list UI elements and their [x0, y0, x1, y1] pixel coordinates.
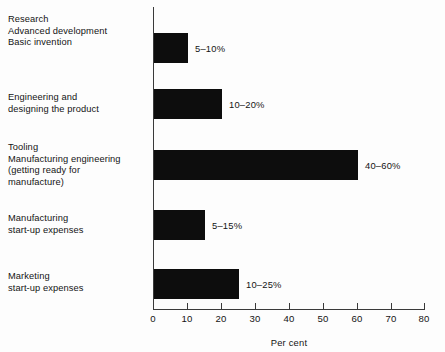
x-axis-tick-label-50: 50 — [317, 313, 328, 324]
x-axis-tick-label-30: 30 — [249, 313, 260, 324]
category-label-5: Marketing start-up expenses — [8, 271, 154, 294]
x-axis-tick-label-80: 80 — [418, 313, 429, 324]
bar-1 — [154, 33, 188, 63]
bar-value-3: 40–60% — [365, 160, 401, 171]
x-axis-tick-30 — [255, 303, 256, 309]
x-axis-tick-20 — [221, 303, 222, 309]
category-label-2: Engineering and designing the product — [8, 92, 154, 115]
x-axis-tick-40 — [289, 303, 290, 309]
x-axis-tick-label-20: 20 — [215, 313, 226, 324]
plot-area: 0 10 20 30 40 50 60 70 80 5–10% 10–20% 4… — [153, 7, 425, 310]
x-axis-tick-label-10: 10 — [181, 313, 192, 324]
x-axis-tick-70 — [391, 303, 392, 309]
bar-value-4: 5–15% — [212, 220, 242, 231]
bar-value-5: 10–25% — [246, 279, 282, 290]
category-label-3: Tooling Manufacturing engineering (getti… — [8, 142, 154, 188]
x-axis-tick-50 — [323, 303, 324, 309]
x-axis-tick-0 — [153, 303, 154, 309]
bar-value-2: 10–20% — [229, 99, 265, 110]
x-axis-tick-label-70: 70 — [385, 313, 396, 324]
category-label-1: Research Advanced development Basic inve… — [8, 14, 154, 49]
bar-4 — [154, 210, 205, 240]
x-axis-tick-80 — [424, 303, 425, 309]
x-axis-tick-60 — [357, 303, 358, 309]
x-axis-tick-label-40: 40 — [283, 313, 294, 324]
x-axis-tick-10 — [187, 303, 188, 309]
bar-2 — [154, 89, 222, 119]
category-label-4: Manufacturing start-up expenses — [8, 213, 154, 236]
x-axis-tick-label-0: 0 — [150, 313, 156, 324]
x-axis-title: Per cent — [153, 337, 425, 348]
bar-value-1: 5–10% — [195, 43, 225, 54]
bar-chart: Research Advanced development Basic inve… — [0, 0, 445, 352]
x-axis-tick-label-60: 60 — [351, 313, 362, 324]
bar-5 — [154, 269, 239, 299]
bar-3 — [154, 150, 358, 180]
